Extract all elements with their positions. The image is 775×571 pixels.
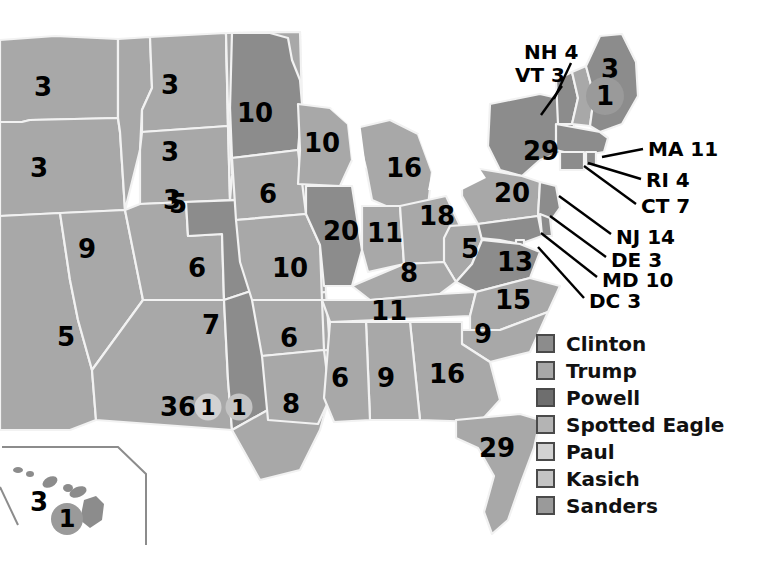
ev-label-mississippi: 6 (331, 365, 349, 391)
ev-label-virginia: 13 (497, 249, 533, 275)
legend-row-spotted-eagle[interactable]: Spotted Eagle (536, 411, 772, 438)
ev-label-kentucky: 8 (400, 260, 418, 286)
callout-label-dc: DC 3 (589, 291, 641, 311)
callout-label-delaware: DE 3 (611, 250, 662, 270)
ev-label-missouri: 10 (272, 255, 308, 281)
ev-label-oklahoma: 7 (202, 312, 220, 338)
ev-label-hawaii: 3 (30, 489, 48, 515)
legend-row-sanders[interactable]: Sanders (536, 492, 772, 519)
ev-label-oregon: 3 (30, 155, 48, 181)
ev-label-wisconsin: 10 (304, 130, 340, 156)
ev-label-arkansas: 6 (280, 325, 298, 351)
callout-label-new-hampshire: NH 4 (524, 42, 578, 62)
legend-swatch-paul (536, 442, 555, 461)
ev-label-minnesota: 10 (237, 100, 273, 126)
legend-row-powell[interactable]: Powell (536, 384, 772, 411)
ev-label-north-dakota: 3 (161, 139, 179, 165)
ev-label-colorado: 9 (78, 236, 96, 262)
state-connecticut (560, 152, 584, 170)
ev-label-alabama: 9 (377, 365, 395, 391)
legend-swatch-sanders (536, 496, 555, 515)
ev-label-louisiana: 8 (282, 391, 300, 417)
legend-row-kasich[interactable]: Kasich (536, 465, 772, 492)
badge-hawaii-split-vote: 1 (51, 503, 83, 535)
ev-label-nebraska: 5 (169, 191, 187, 217)
legend-swatch-powell (536, 388, 555, 407)
legend-row-paul[interactable]: Paul (536, 438, 772, 465)
legend-label-trump: Trump (566, 361, 637, 381)
callout-label-massachusetts: MA 11 (648, 139, 718, 159)
badge-maine-split-vote: 1 (586, 77, 624, 115)
state-washington (0, 36, 118, 122)
ev-label-texas: 36 (160, 394, 196, 420)
callout-line-rhode-island (588, 163, 641, 179)
callout-line-delaware (550, 216, 606, 257)
legend-row-clinton[interactable]: Clinton (536, 330, 772, 357)
legend-swatch-clinton (536, 334, 555, 353)
ev-label-indiana: 11 (367, 220, 403, 246)
callout-label-rhode-island: RI 4 (646, 170, 690, 190)
legend-label-clinton: Clinton (566, 334, 646, 354)
legend-label-kasich: Kasich (566, 469, 640, 489)
badge-texas-split-vote-2: 1 (226, 394, 253, 421)
map-legend: ClintonTrumpPowellSpotted EaglePaulKasic… (536, 330, 772, 519)
ev-label-iowa: 6 (259, 181, 277, 207)
ev-label-georgia: 16 (429, 361, 465, 387)
callout-label-new-jersey: NJ 14 (616, 227, 675, 247)
badge-texas-split-vote-1: 1 (195, 394, 222, 421)
ev-label-west-virginia: 5 (461, 236, 479, 262)
legend-swatch-spotted-eagle (536, 415, 555, 434)
ev-label-tennessee: 11 (371, 298, 407, 324)
legend-label-sanders: Sanders (566, 496, 658, 516)
electoral-map: 3333101016365292020111851396108111595768… (0, 0, 775, 571)
ev-label-north-carolina: 15 (495, 287, 531, 313)
ev-label-montana: 3 (161, 72, 179, 98)
ev-label-kansas: 6 (188, 255, 206, 281)
callout-label-maryland: MD 10 (602, 270, 673, 290)
legend-label-powell: Powell (566, 388, 640, 408)
ev-label-south-carolina: 9 (474, 321, 492, 347)
state-florida (456, 414, 540, 534)
ev-label-illinois: 20 (323, 218, 359, 244)
state-minnesota (230, 33, 302, 158)
legend-row-trump[interactable]: Trump (536, 357, 772, 384)
callout-line-massachusetts (602, 149, 643, 157)
callout-label-connecticut: CT 7 (641, 196, 690, 216)
legend-swatch-trump (536, 361, 555, 380)
ev-label-ohio: 18 (419, 203, 455, 229)
legend-label-spotted-eagle: Spotted Eagle (566, 415, 724, 435)
callout-line-connecticut (584, 166, 636, 204)
callout-line-maryland (541, 233, 597, 277)
ev-label-pennsylvania: 20 (494, 180, 530, 206)
callout-label-vermont: VT 3 (515, 65, 565, 85)
state-montana (142, 33, 228, 132)
ev-label-florida: 29 (479, 435, 515, 461)
legend-label-paul: Paul (566, 442, 615, 462)
legend-swatch-kasich (536, 469, 555, 488)
state-oregon (0, 118, 125, 216)
ev-label-new-york: 29 (523, 138, 559, 164)
ev-label-michigan: 16 (386, 155, 422, 181)
ev-label-washington: 3 (34, 74, 52, 100)
ev-label-new-mexico: 5 (57, 324, 75, 350)
